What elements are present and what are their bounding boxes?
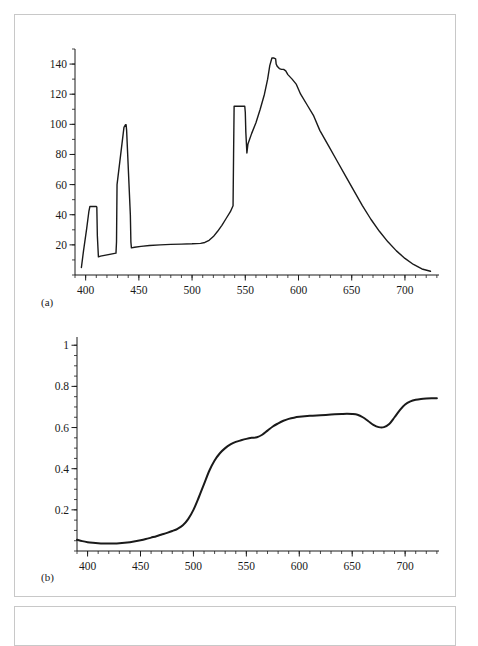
x-tick-label: 550 — [237, 284, 255, 296]
next-figure-box — [14, 606, 456, 646]
x-tick-label: 600 — [290, 284, 308, 296]
y-tick-label: 0.2 — [55, 504, 70, 516]
y-tick-label: 120 — [50, 88, 68, 100]
panel-a-spectral-power: 20406080100120140400450500550600650700 (… — [15, 19, 457, 315]
x-tick-label: 650 — [344, 560, 362, 572]
figure-container: 20406080100120140400450500550600650700 (… — [14, 14, 456, 597]
y-tick-label: 1 — [63, 339, 69, 351]
x-tick-label: 700 — [397, 560, 415, 572]
y-tick-label: 20 — [56, 239, 68, 251]
x-tick-label: 700 — [396, 284, 414, 296]
y-tick-label: 140 — [50, 58, 68, 70]
y-tick-label: 100 — [50, 118, 68, 130]
x-tick-label: 600 — [291, 560, 309, 572]
y-tick-label: 40 — [56, 209, 68, 221]
x-tick-label: 400 — [77, 284, 95, 296]
panel-a-label: (a) — [41, 296, 53, 308]
x-tick-label: 500 — [183, 284, 201, 296]
x-tick-label: 450 — [130, 284, 148, 296]
x-tick-label: 500 — [185, 560, 203, 572]
panel-a-plot: 20406080100120140400450500550600650700 — [15, 19, 457, 315]
y-tick-label: 60 — [56, 179, 68, 191]
y-tick-label: 0.6 — [55, 422, 70, 434]
y-tick-label: 0.4 — [55, 463, 70, 475]
data-curve — [77, 398, 437, 543]
panel-b-plot: 0.20.40.60.81400450500550600650700 — [15, 315, 457, 597]
y-tick-label: 80 — [56, 148, 68, 160]
data-curve — [81, 58, 430, 271]
y-tick-label: 0.8 — [55, 380, 70, 392]
x-tick-label: 450 — [132, 560, 150, 572]
x-tick-label: 550 — [238, 560, 256, 572]
panel-b-label: (b) — [41, 571, 54, 583]
x-tick-label: 650 — [343, 284, 361, 296]
panel-b-spectral-reflectance: 0.20.40.60.81400450500550600650700 (b) — [15, 315, 457, 597]
x-tick-label: 400 — [79, 560, 97, 572]
